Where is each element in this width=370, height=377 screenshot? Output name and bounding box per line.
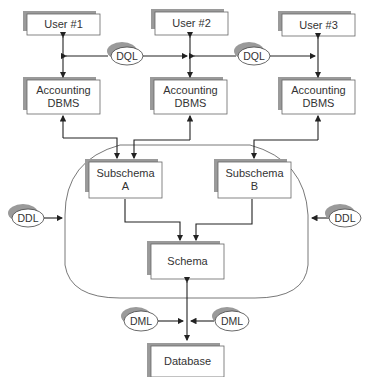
schema-label: Schema [151,244,224,279]
user-1-label: User #1 [27,14,100,35]
dbms-1-label: Accounting DBMS [32,80,95,114]
dql-right-label: DQL [238,47,270,65]
dml-left-label: DML [124,311,158,331]
subschema-a-label: Subschema A [94,162,157,198]
ddl-left-label: DDL [12,209,44,227]
dml-right-label: DML [215,311,249,331]
dql-left-label: DQL [111,47,143,65]
user-2-label: User #2 [155,12,228,35]
database-label: Database [151,346,224,377]
diagram-canvas [0,0,370,377]
ddl-right-label: DDL [329,209,361,227]
dbms-2-label: Accounting DBMS [159,80,222,114]
user-3-label: User #3 [282,14,355,36]
dbms-3-label: Accounting DBMS [287,80,350,114]
subschema-b-label: Subschema B [223,162,286,198]
